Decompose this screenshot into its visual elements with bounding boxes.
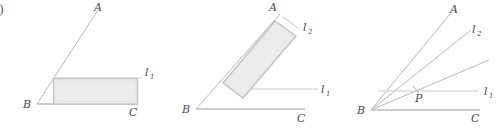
panel-1-label-l1-letter: l xyxy=(145,66,149,79)
panel-3-ray-ba xyxy=(371,14,450,110)
panel-2-label-l1-letter: l xyxy=(321,83,325,96)
panel-3-label-l2-subscript: 2 xyxy=(476,30,482,38)
geometry-figure-three-panels: ) A B C l 1 A B C xyxy=(0,0,499,131)
panel-1-label-c: C xyxy=(129,106,138,119)
panel-1-rectangle xyxy=(54,79,138,105)
panel-3-label-p: P xyxy=(414,92,423,105)
panel-3-label-a: A xyxy=(449,3,458,16)
panel-3-label-c: C xyxy=(471,112,480,125)
panel-1-label-b: B xyxy=(22,98,31,111)
panel-3-label-l1-subscript: 1 xyxy=(489,92,493,100)
panel-2-label-l2: l 2 xyxy=(303,21,313,36)
panel-1-label-l1: l 1 xyxy=(145,66,154,81)
panel-1: A B C l 1 xyxy=(22,1,154,119)
panel-3-label-b: B xyxy=(356,104,365,117)
panel-2-line-l2 xyxy=(283,17,298,28)
panel-3-label-l2: l 2 xyxy=(472,23,482,38)
panel-3-label-l1: l 1 xyxy=(484,85,493,100)
panel-3: A B C P l 1 l 2 xyxy=(356,3,493,125)
caption-paren-fragment: ) xyxy=(0,2,4,17)
panel-2: A B C l 1 l 2 xyxy=(181,1,330,125)
panel-2-label-l1: l 1 xyxy=(321,83,330,98)
panel-3-label-l1-letter: l xyxy=(484,85,488,98)
panel-2-label-l2-letter: l xyxy=(303,21,307,34)
panel-1-label-a: A xyxy=(93,1,102,14)
panel-2-rectangle xyxy=(223,21,296,98)
panel-2-label-l1-subscript: 1 xyxy=(326,90,330,98)
panel-1-label-l1-subscript: 1 xyxy=(150,73,154,81)
panel-2-label-a: A xyxy=(268,1,277,14)
panel-2-label-c: C xyxy=(297,112,306,125)
panel-3-label-l2-letter: l xyxy=(472,23,476,36)
panel-3-ray-middle xyxy=(371,60,489,110)
panel-2-label-l2-subscript: 2 xyxy=(307,28,313,36)
panel-2-label-b: B xyxy=(181,103,190,116)
